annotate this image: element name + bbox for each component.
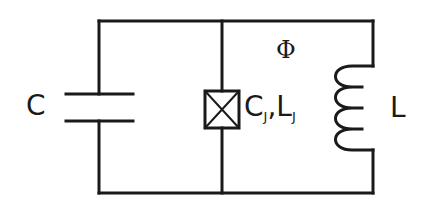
junction-c-label: C xyxy=(244,90,264,123)
junction-l-label: L xyxy=(276,90,292,123)
flux-label: Φ xyxy=(276,38,296,62)
junction-cross xyxy=(205,91,239,128)
junction-label: CJ,LJ xyxy=(244,93,296,123)
junction-l-subscript: J xyxy=(292,109,296,124)
inductor-label: L xyxy=(390,94,406,122)
circuit-diagram: C Φ CJ,LJ L xyxy=(0,0,423,204)
capacitor-label: C xyxy=(26,92,46,120)
circuit-wires xyxy=(0,0,423,204)
inductor-coil xyxy=(336,66,374,150)
junction-separator: , xyxy=(267,90,276,123)
